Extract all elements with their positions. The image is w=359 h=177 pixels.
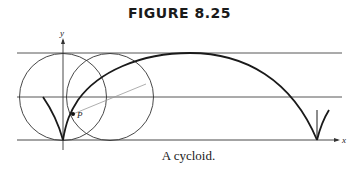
x-axis-arrow-icon (334, 138, 340, 142)
y-axis-label: y (59, 28, 64, 38)
cycloid-arch (63, 53, 317, 140)
point-p-label: P (76, 110, 83, 120)
point-p (71, 112, 75, 116)
y-axis-arrow-icon (61, 38, 65, 44)
cycloid-right-cusp-branch (317, 110, 329, 140)
cycloid-left-cusp-branch (43, 97, 63, 140)
radius-segment (73, 84, 146, 114)
figure-caption: A cycloid. (0, 148, 359, 164)
x-axis-label: x (341, 135, 346, 145)
